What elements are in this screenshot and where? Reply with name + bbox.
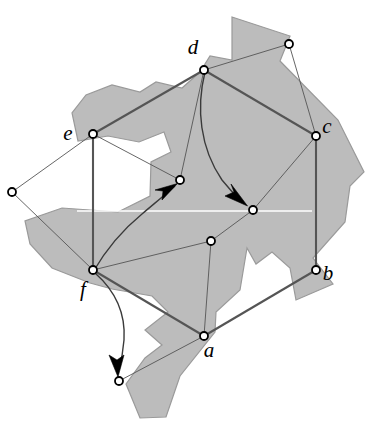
vertex-label-c: c xyxy=(322,114,332,138)
geometric-graph-diagram: dcbafe xyxy=(0,0,368,427)
vertex-node-d[interactable] xyxy=(200,66,208,74)
vertex-label-a: a xyxy=(204,338,215,362)
vertex-node-n4[interactable] xyxy=(176,176,184,184)
vertex-node-e[interactable] xyxy=(89,130,97,138)
vertex-label-b: b xyxy=(323,261,334,285)
vertex-node-n3[interactable] xyxy=(207,237,215,245)
vertex-node-n5[interactable] xyxy=(8,188,16,196)
figure-container: dcbafe xyxy=(0,0,368,427)
vertex-node-n6[interactable] xyxy=(115,377,123,385)
vertex-node-c[interactable] xyxy=(312,132,320,140)
vertex-node-f[interactable] xyxy=(89,266,97,274)
vertex-node-n2[interactable] xyxy=(249,206,257,214)
vertex-node-b[interactable] xyxy=(312,266,320,274)
vertex-node-n1[interactable] xyxy=(285,40,293,48)
vertex-label-d: d xyxy=(188,35,199,59)
vertex-label-e: e xyxy=(63,121,72,145)
